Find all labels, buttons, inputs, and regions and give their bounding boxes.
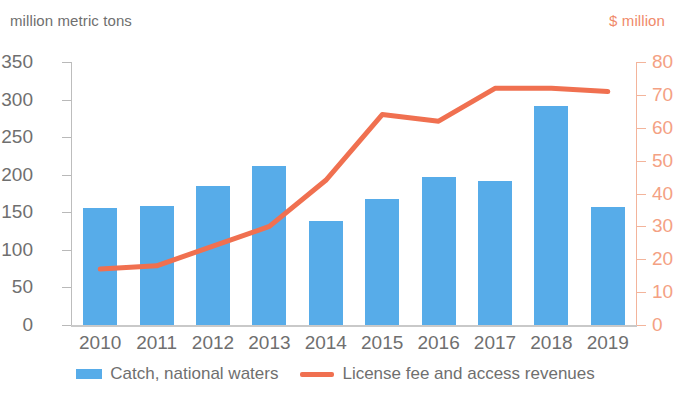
bar: [140, 206, 174, 325]
left-tick-label: 250: [1, 127, 33, 146]
right-tick-label: 80: [652, 52, 673, 71]
right-tick-label: 50: [652, 151, 673, 170]
left-tick-label: 100: [1, 240, 33, 259]
bar: [365, 199, 399, 325]
right-tick-label: 40: [652, 184, 673, 203]
x-axis-label: 2018: [521, 332, 581, 354]
right-tick-label: 70: [652, 85, 673, 104]
legend-item-line: License fee and access revenues: [300, 364, 594, 384]
left-tick-label: 300: [1, 90, 33, 109]
right-tick-mark: [637, 161, 646, 162]
left-tick-label: 350: [1, 52, 33, 71]
right-tick-mark: [637, 292, 646, 293]
bar: [309, 221, 343, 325]
right-tick-mark: [637, 95, 646, 96]
bar: [534, 106, 568, 325]
bar: [478, 181, 512, 325]
chart-legend: Catch, national waters License fee and a…: [0, 364, 671, 384]
left-tick-mark: [62, 62, 71, 63]
x-axis-label: 2010: [70, 332, 130, 354]
right-tick-label: 30: [652, 216, 673, 235]
left-tick-label: 50: [12, 277, 33, 296]
right-tick-mark: [637, 194, 646, 195]
left-tick-mark: [62, 287, 71, 288]
left-tick-mark: [62, 175, 71, 176]
left-axis-caption: million metric tons: [10, 12, 132, 29]
x-axis-label: 2013: [239, 332, 299, 354]
right-tick-label: 20: [652, 249, 673, 268]
right-tick-mark: [637, 226, 646, 227]
x-axis-label: 2016: [409, 332, 469, 354]
right-tick-mark: [637, 259, 646, 260]
right-tick-label: 60: [652, 118, 673, 137]
bar: [591, 207, 625, 325]
legend-line-swatch-icon: [300, 372, 334, 377]
left-tick-label: 200: [1, 165, 33, 184]
bar: [196, 186, 230, 325]
legend-item-bar: Catch, national waters: [76, 364, 278, 384]
left-tick-mark: [62, 212, 71, 213]
bar: [422, 177, 456, 325]
right-tick-mark: [637, 128, 646, 129]
left-tick-mark: [62, 325, 71, 326]
legend-bar-label: Catch, national waters: [110, 364, 278, 384]
x-axis-label: 2011: [127, 332, 187, 354]
x-axis-label: 2019: [578, 332, 638, 354]
x-axis-label: 2015: [352, 332, 412, 354]
left-tick-mark: [62, 100, 71, 101]
right-axis-caption: $ million: [609, 12, 665, 29]
legend-line-label: License fee and access revenues: [342, 364, 594, 384]
x-axis-line: [71, 325, 637, 327]
right-tick-mark: [637, 325, 646, 326]
bar: [252, 166, 286, 325]
x-axis-label: 2012: [183, 332, 243, 354]
left-tick-label: 150: [1, 202, 33, 221]
right-tick-label: 10: [652, 282, 673, 301]
x-axis-label: 2017: [465, 332, 525, 354]
legend-bar-swatch-icon: [76, 369, 102, 379]
left-tick-mark: [62, 250, 71, 251]
left-tick-label: 0: [22, 315, 33, 334]
bar-series: [72, 62, 636, 325]
left-tick-mark: [62, 137, 71, 138]
right-tick-mark: [637, 62, 646, 63]
bar: [83, 208, 117, 325]
x-axis-label: 2014: [296, 332, 356, 354]
right-tick-label: 0: [652, 315, 663, 334]
